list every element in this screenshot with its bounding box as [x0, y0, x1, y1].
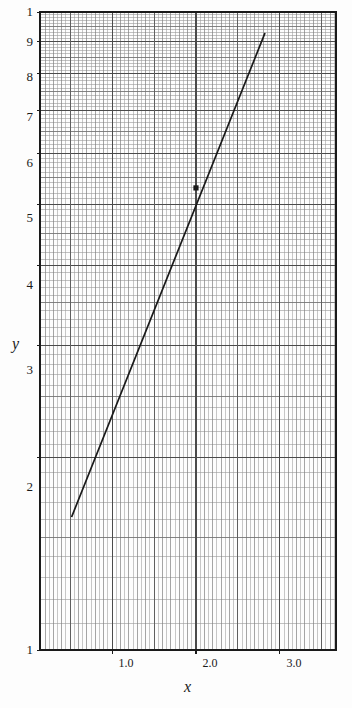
y-tick-label-5: 5 [0, 210, 33, 226]
y-tick-label-10: 1 [0, 4, 33, 20]
y-tick-label-7: 7 [0, 109, 33, 125]
y-tick-label-2: 2 [0, 479, 33, 495]
x-tick-label-3: 3.0 [274, 656, 314, 671]
y-tick-label-1: 1 [0, 642, 33, 658]
y-tick-label-6: 6 [0, 155, 33, 171]
y-tick-label-3: 3 [0, 362, 33, 378]
x-axis-title: x [184, 678, 191, 696]
figure-background [0, 0, 352, 708]
y-axis-title: y [12, 335, 19, 353]
y-tick-label-8: 8 [0, 69, 33, 85]
x-tick-label-2: 2.0 [190, 656, 230, 671]
semilog-plot-figure: 1 9 8 7 6 5 4 3 2 1 y 1.0 2.0 3.0 x [0, 0, 352, 708]
y-tick-label-9: 9 [0, 34, 33, 50]
y-tick-label-4: 4 [0, 277, 33, 293]
plot-canvas [0, 0, 352, 708]
x-tick-label-1: 1.0 [106, 656, 146, 671]
data-point-marker [193, 185, 198, 190]
